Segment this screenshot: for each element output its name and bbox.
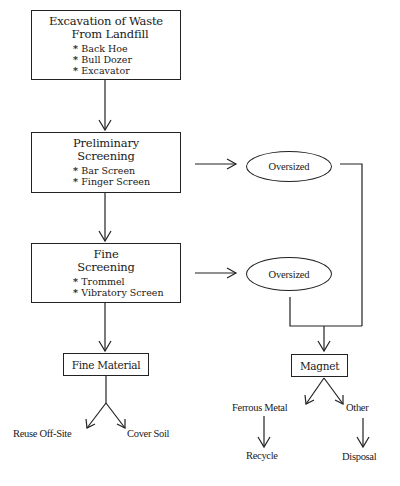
list-item: Finger Screen (73, 176, 180, 187)
output-recycle: Recycle (246, 450, 278, 461)
output-other: Other (346, 402, 368, 413)
output-disposal: Disposal (342, 451, 376, 462)
step-excavation-box: Excavation of Waste From Landfill Back H… (31, 10, 181, 80)
list-item: Bull Dozer (73, 54, 180, 65)
equipment-list: Back Hoe Bull Dozer Excavator (73, 43, 180, 76)
oversized-node-2: Oversized (246, 257, 332, 291)
magnet-box: Magnet (291, 354, 348, 377)
step-title: Screening (32, 261, 180, 274)
oversized-node-1: Oversized (246, 151, 332, 182)
output-cover-soil: Cover Soil (127, 428, 169, 439)
list-item: Back Hoe (73, 43, 180, 54)
fine-material-box: Fine Material (63, 353, 149, 376)
equipment-list: Trommel Vibratory Screen (73, 276, 180, 298)
list-item: Excavator (73, 65, 180, 76)
output-reuse-off-site: Reuse Off-Site (13, 428, 71, 439)
step-fine-screening-box: Fine Screening Trommel Vibratory Screen (31, 243, 181, 303)
list-item: Bar Screen (73, 165, 180, 176)
step-title: Screening (32, 150, 180, 163)
list-item: Trommel (73, 276, 180, 287)
step-title: From Landfill (32, 28, 180, 41)
list-item: Vibratory Screen (73, 287, 180, 298)
step-preliminary-box: Preliminary Screening Bar Screen Finger … (31, 132, 181, 193)
equipment-list: Bar Screen Finger Screen (73, 165, 180, 187)
output-ferrous-metal: Ferrous Metal (232, 402, 287, 413)
